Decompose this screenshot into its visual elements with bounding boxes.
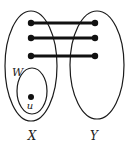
bipartite-matching-diagram: W u X Y bbox=[0, 0, 128, 156]
vertex-y bbox=[92, 53, 98, 59]
vertex-x bbox=[28, 35, 34, 41]
set-y-ellipse bbox=[70, 11, 124, 119]
vertex-y bbox=[92, 20, 98, 26]
set-y-label: Y bbox=[90, 129, 99, 143]
subset-w-label: W bbox=[12, 66, 25, 79]
vertex-x bbox=[28, 20, 34, 26]
matching-edges bbox=[28, 20, 98, 59]
vertex-y bbox=[92, 35, 98, 41]
vertex-u-label: u bbox=[27, 100, 33, 111]
set-x-label: X bbox=[27, 129, 37, 143]
vertex-x bbox=[28, 53, 34, 59]
